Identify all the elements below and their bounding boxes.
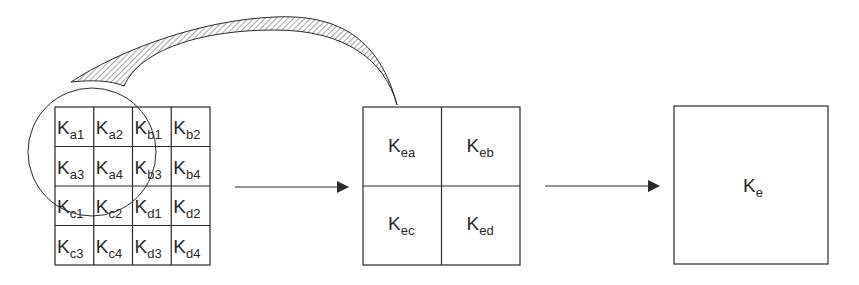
grid-cell-kd3: Kd3 <box>135 236 162 261</box>
grid-cell-kc2: Kc2 <box>96 196 122 221</box>
grid-cell-kb4: Kb4 <box>173 157 200 182</box>
grid-cell-kc1: Kc1 <box>57 196 83 221</box>
grid-cell-ka4: Ka4 <box>96 157 123 182</box>
middle-cell-kea: Kea <box>388 135 416 160</box>
grid-cell-kd1: Kd1 <box>135 196 162 221</box>
grid-cell-ka1: Ka1 <box>57 117 84 142</box>
grid-cell-kd2: Kd2 <box>173 196 200 221</box>
grid-labels: Ka1Ka2Kb1Kb2Ka3Ka4Kb3Kb4Kc1Kc2Kd1Kd2Kc3K… <box>57 117 200 261</box>
middle-cell-kec: Kec <box>388 213 415 238</box>
grid-cell-kd4: Kd4 <box>173 236 200 261</box>
hatched-connector-band <box>71 17 397 105</box>
final-label: Ke <box>743 175 763 200</box>
grid-cell-ka3: Ka3 <box>57 157 84 182</box>
grid-cell-kb3: Kb3 <box>135 157 162 182</box>
grid-cell-kc3: Kc3 <box>57 236 83 261</box>
grid-cell-ka2: Ka2 <box>96 117 123 142</box>
grid-cell-kb2: Kb2 <box>173 117 200 142</box>
middle-cell-keb: Keb <box>467 135 494 160</box>
diagram-canvas: Ka1Ka2Kb1Kb2Ka3Ka4Kb3Kb4Kc1Kc2Kd1Kd2Kc3K… <box>0 0 859 285</box>
middle-cell-ked: Ked <box>467 213 494 238</box>
grid-2x2 <box>363 107 520 265</box>
grid-cell-kc4: Kc4 <box>96 236 122 261</box>
